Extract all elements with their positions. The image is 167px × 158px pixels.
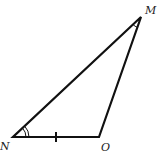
angle-arc-N-inner	[23, 128, 27, 137]
label-N: N	[0, 140, 10, 153]
label-M: M	[144, 4, 157, 17]
triangle-diagram: M N O	[0, 0, 167, 158]
label-O: O	[101, 141, 110, 154]
triangle-MNO	[13, 17, 141, 137]
